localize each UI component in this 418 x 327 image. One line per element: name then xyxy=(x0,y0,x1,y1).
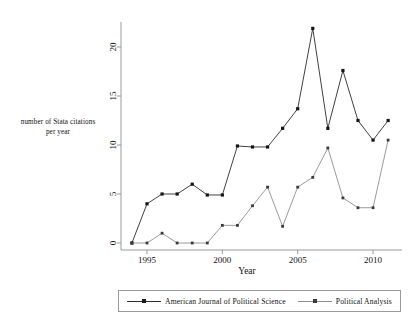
data-point-marker xyxy=(281,127,284,130)
data-point-marker xyxy=(145,202,148,205)
x-axis-ticks: 1995200020052010 xyxy=(138,250,383,265)
data-point-marker xyxy=(206,242,209,245)
x-tick-label: 2000 xyxy=(213,255,232,265)
legend-label-political-analysis: Political Analysis xyxy=(336,297,392,306)
data-point-marker xyxy=(160,192,163,195)
x-tick-label: 2005 xyxy=(289,255,308,265)
data-point-marker xyxy=(281,225,284,228)
legend-item-ajps: American Journal of Political Science xyxy=(127,297,286,306)
data-point-marker xyxy=(311,27,314,30)
data-point-marker xyxy=(206,193,209,196)
chart-figure: number of Stata citations per year 05101… xyxy=(0,0,418,327)
data-point-marker xyxy=(326,127,329,130)
x-axis-group: 1995200020052010 xyxy=(121,250,402,265)
data-point-marker xyxy=(191,242,194,245)
data-point-marker xyxy=(251,204,254,207)
data-point-marker xyxy=(387,139,390,142)
data-point-marker xyxy=(146,242,149,245)
data-point-marker xyxy=(356,119,359,122)
data-series-layer xyxy=(130,27,389,245)
chart-legend: American Journal of Political Science Po… xyxy=(118,290,401,312)
y-axis-ticks: 05101520 xyxy=(108,42,121,245)
data-point-marker xyxy=(311,176,314,179)
data-point-marker xyxy=(251,145,254,148)
y-tick-label: 0 xyxy=(108,240,118,245)
data-point-marker xyxy=(371,139,374,142)
data-point-marker xyxy=(236,144,239,147)
data-series-ajps xyxy=(130,27,389,245)
data-series-political-analysis xyxy=(131,139,390,245)
y-tick-label: 10 xyxy=(108,140,118,150)
data-point-marker xyxy=(357,206,360,209)
data-point-marker xyxy=(131,242,134,245)
legend-swatch-ajps-icon xyxy=(127,297,161,306)
line-chart-plot: 05101520 1995200020052010 xyxy=(0,0,418,327)
data-point-marker xyxy=(236,224,239,227)
data-point-marker xyxy=(221,193,224,196)
data-point-marker xyxy=(296,107,299,110)
data-point-marker xyxy=(176,242,179,245)
data-point-marker xyxy=(341,69,344,72)
y-tick-label: 5 xyxy=(108,191,118,196)
data-point-marker xyxy=(266,145,269,148)
legend-swatch-political-analysis-icon xyxy=(298,297,332,306)
y-tick-label: 15 xyxy=(108,91,118,101)
data-point-marker xyxy=(326,147,329,150)
legend-item-political-analysis: Political Analysis xyxy=(298,297,392,306)
data-point-marker xyxy=(342,197,345,200)
data-point-marker xyxy=(296,186,299,189)
x-axis-title: Year xyxy=(0,266,418,276)
y-tick-label: 20 xyxy=(108,42,118,52)
x-tick-label: 1995 xyxy=(138,255,157,265)
data-point-marker xyxy=(161,232,164,235)
data-point-marker xyxy=(266,186,269,189)
data-point-marker xyxy=(372,206,375,209)
legend-label-ajps: American Journal of Political Science xyxy=(165,297,286,306)
x-tick-label: 2010 xyxy=(364,255,383,265)
series-line xyxy=(132,28,388,243)
data-point-marker xyxy=(191,183,194,186)
data-point-marker xyxy=(221,224,224,227)
x-axis-title-text: Year xyxy=(238,266,256,276)
data-point-marker xyxy=(176,192,179,195)
data-point-marker xyxy=(387,119,390,122)
y-axis-group: 05101520 xyxy=(108,22,121,250)
series-line xyxy=(132,140,388,243)
